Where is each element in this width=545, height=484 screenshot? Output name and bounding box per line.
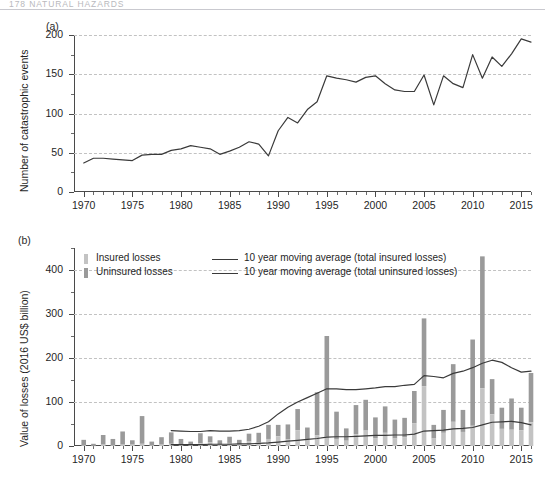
bar-insured-losses [422, 386, 427, 446]
header-rule [0, 9, 545, 10]
bar-insured-losses [101, 445, 106, 446]
bar-uninsured-losses [363, 400, 368, 431]
bar-insured-losses [373, 438, 378, 446]
bar-uninsured-losses [227, 437, 232, 443]
bar-insured-losses [237, 444, 242, 446]
page-running-header: 178 NATURAL HAZARDS [0, 0, 545, 14]
bar-uninsured-losses [509, 398, 514, 429]
running-header-text: 178 NATURAL HAZARDS [9, 0, 124, 9]
bar-uninsured-losses [81, 440, 86, 445]
bar-insured-losses [140, 444, 145, 446]
bar-uninsured-losses [120, 431, 125, 444]
bar-insured-losses [81, 445, 86, 446]
bar-insured-losses [480, 388, 485, 446]
bar-insured-losses [149, 445, 154, 446]
bar-uninsured-losses [431, 425, 436, 439]
bar-uninsured-losses [295, 409, 300, 430]
bar-insured-losses [500, 429, 505, 446]
bar-insured-losses [393, 439, 398, 446]
panel-b-legend: Insured lossesUninsured losses10 year mo… [84, 253, 504, 283]
bar-uninsured-losses [470, 340, 475, 426]
bar-uninsured-losses [325, 336, 330, 437]
bar-insured-losses [529, 422, 534, 446]
bar-uninsured-losses [383, 406, 388, 432]
bar-uninsured-losses [130, 440, 135, 444]
figure-panel-b: (b) Value of losses (2016 US$ billion) 0… [0, 232, 545, 484]
bar-uninsured-losses [140, 416, 145, 444]
bar-uninsured-losses [198, 433, 203, 443]
bar-uninsured-losses [111, 439, 116, 445]
legend-label: Uninsured losses [96, 266, 173, 277]
bar-uninsured-losses [305, 428, 310, 439]
bar-uninsured-losses [101, 435, 106, 445]
legend-label: 10 year moving average (total uninsured … [244, 266, 457, 277]
bar-insured-losses [334, 439, 339, 446]
bar-uninsured-losses [256, 433, 261, 443]
bar-insured-losses [451, 422, 456, 446]
legend-line-marker [212, 273, 238, 274]
bar-uninsured-losses [247, 434, 252, 442]
bar-uninsured-losses [393, 420, 398, 439]
bar-uninsured-losses [276, 425, 281, 436]
bar-uninsured-losses [344, 428, 349, 440]
bar-uninsured-losses [315, 392, 320, 435]
bar-insured-losses [130, 445, 135, 446]
bar-insured-losses [344, 441, 349, 446]
bar-uninsured-losses [519, 408, 524, 430]
bar-uninsured-losses [500, 408, 505, 429]
moving-average-insured-line [171, 421, 531, 444]
bar-insured-losses [120, 445, 125, 446]
legend-swatch-uninsured [84, 268, 88, 278]
bar-insured-losses [431, 439, 436, 446]
bar-uninsured-losses [149, 442, 154, 446]
bar-uninsured-losses [159, 437, 164, 444]
bar-insured-losses [91, 446, 96, 447]
bar-uninsured-losses [179, 439, 184, 444]
bar-insured-losses [286, 439, 291, 446]
bar-insured-losses [461, 432, 466, 446]
panel-a-events-line [84, 39, 531, 163]
bar-uninsured-losses [334, 412, 339, 439]
bar-insured-losses [159, 445, 164, 446]
bar-insured-losses [315, 435, 320, 446]
bar-insured-losses [402, 437, 407, 446]
bar-insured-losses [519, 430, 524, 446]
bar-insured-losses [363, 431, 368, 446]
legend-label: 10 year moving average (total insured lo… [244, 252, 446, 263]
bar-uninsured-losses [286, 424, 291, 439]
bar-insured-losses [470, 426, 475, 446]
bar-uninsured-losses [412, 391, 417, 423]
bar-insured-losses [276, 436, 281, 446]
bar-uninsured-losses [354, 405, 359, 434]
bar-uninsured-losses [91, 444, 96, 446]
bar-insured-losses [325, 437, 330, 446]
bar-uninsured-losses [529, 373, 534, 422]
bar-insured-losses [111, 445, 116, 446]
legend-label: Insured losses [96, 252, 160, 263]
moving-average-uninsured-line [171, 360, 531, 431]
panel-a-line-series [0, 14, 545, 224]
bar-insured-losses [509, 430, 514, 446]
bar-uninsured-losses [266, 425, 271, 439]
bar-insured-losses [490, 414, 495, 446]
bar-uninsured-losses [208, 436, 213, 442]
legend-line-marker [212, 259, 238, 260]
legend-swatch-insured [84, 254, 88, 264]
bar-insured-losses [295, 430, 300, 446]
figure-panel-a: (a) Number of catastrophic events 050100… [0, 14, 545, 224]
bar-uninsured-losses [490, 379, 495, 414]
bar-insured-losses [441, 433, 446, 446]
bar-uninsured-losses [169, 432, 174, 443]
